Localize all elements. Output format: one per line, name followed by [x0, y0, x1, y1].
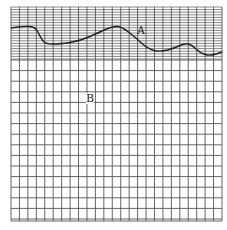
region-label-a: A — [137, 25, 145, 36]
grid-lines — [0, 0, 227, 230]
region-label-b: B — [86, 93, 94, 104]
grid-diagram: A B — [0, 0, 227, 230]
